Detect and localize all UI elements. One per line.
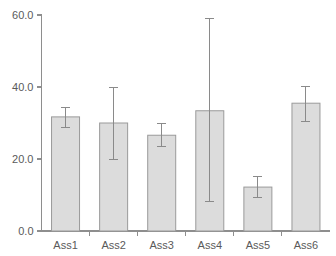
chart-canvas: 0.020.040.060.0Ass1Ass2Ass3Ass4Ass5Ass6 [0,0,336,256]
y-tick-label: 40.0 [12,81,33,93]
y-tick-label: 20.0 [12,153,33,165]
x-tick-label-ass1: Ass1 [53,239,77,251]
y-tick-label: 60.0 [12,9,33,21]
x-tick-label-ass2: Ass2 [101,239,125,251]
bar-chart: 0.020.040.060.0Ass1Ass2Ass3Ass4Ass5Ass6 [0,0,336,256]
x-tick-label-ass5: Ass5 [246,239,270,251]
x-tick-label-ass3: Ass3 [149,239,173,251]
x-tick-label-ass4: Ass4 [198,239,222,251]
bar-ass3 [148,135,176,231]
y-tick-label: 0.0 [18,225,33,237]
x-tick-label-ass6: Ass6 [294,239,318,251]
bar-ass1 [52,117,80,231]
bar-ass6 [292,103,320,231]
